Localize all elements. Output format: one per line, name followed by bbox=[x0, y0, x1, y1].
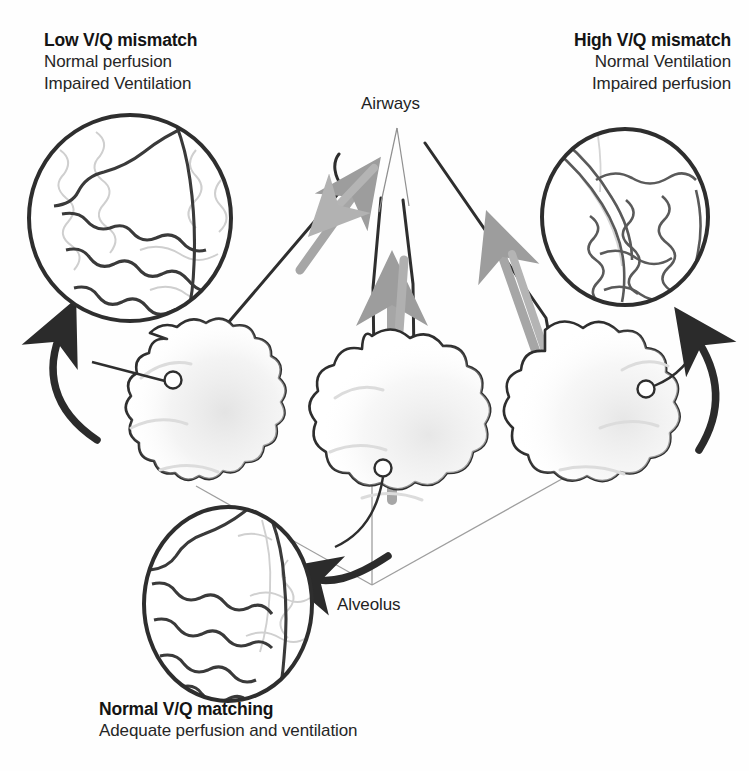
high-vq-alveolus-inset bbox=[540, 127, 712, 309]
label-airways: Airways bbox=[361, 94, 420, 114]
right-cluster-node bbox=[638, 381, 655, 398]
callout-low-vq: Low V/Q mismatch Normal perfusion Impair… bbox=[44, 29, 197, 95]
vq-mismatch-diagram: Low V/Q mismatch Normal perfusion Impair… bbox=[0, 0, 749, 771]
left-alveolar-cluster bbox=[126, 319, 286, 480]
label-alveolus: Alveolus bbox=[337, 595, 400, 615]
left-cluster-node bbox=[165, 372, 182, 389]
callout-high-vq: High V/Q mismatch Normal Ventilation Imp… bbox=[574, 29, 731, 95]
low-vq-alveolus-inset bbox=[29, 114, 231, 345]
callout-normal-vq: Normal V/Q matching Adequate perfusion a… bbox=[99, 698, 357, 742]
callout-normal-vq-title: Normal V/Q matching bbox=[99, 698, 357, 720]
callout-normal-vq-line1: Adequate perfusion and ventilation bbox=[99, 720, 357, 742]
airway-apex-lines bbox=[379, 128, 409, 212]
diagram-artwork bbox=[0, 0, 749, 771]
callout-low-vq-line2: Impaired Ventilation bbox=[44, 73, 197, 95]
normal-vq-alveolus-inset bbox=[143, 496, 315, 704]
callout-high-vq-title: High V/Q mismatch bbox=[574, 29, 731, 51]
center-cluster-node bbox=[375, 460, 392, 477]
callout-low-vq-title: Low V/Q mismatch bbox=[44, 29, 197, 51]
pointer-to-low-vq-inset bbox=[53, 330, 97, 440]
callout-high-vq-line1: Normal Ventilation bbox=[574, 51, 731, 73]
callout-high-vq-line2: Impaired perfusion bbox=[574, 73, 731, 95]
callout-low-vq-line1: Normal perfusion bbox=[44, 51, 197, 73]
pointer-to-high-vq-inset bbox=[694, 335, 716, 450]
center-alveolar-cluster bbox=[309, 329, 490, 500]
pointer-to-normal-vq-inset bbox=[308, 556, 388, 580]
